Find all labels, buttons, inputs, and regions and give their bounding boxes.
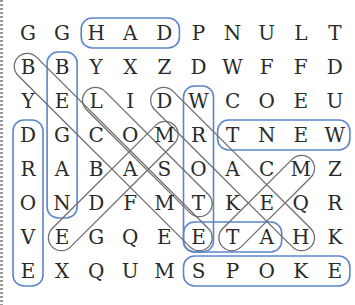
grid-letter[interactable]: A xyxy=(115,154,145,184)
grid-letter[interactable]: I xyxy=(115,86,145,116)
grid-letter[interactable]: T xyxy=(320,18,350,48)
grid-letter[interactable]: Z xyxy=(320,154,350,184)
grid-letter[interactable]: X xyxy=(47,256,77,286)
grid-letter[interactable]: F xyxy=(252,52,282,82)
grid-letter[interactable]: G xyxy=(81,222,111,252)
grid-letter[interactable]: H xyxy=(81,18,111,48)
grid-letter[interactable]: O xyxy=(252,86,282,116)
grid-letter[interactable]: B xyxy=(81,154,111,184)
grid-letter[interactable]: G xyxy=(47,120,77,150)
grid-letter[interactable]: E xyxy=(47,86,77,116)
grid-letter[interactable]: E xyxy=(320,256,350,286)
grid-letter[interactable]: T xyxy=(218,120,248,150)
grid-letter[interactable]: D xyxy=(149,18,179,48)
grid-letter[interactable]: D xyxy=(149,86,179,116)
word-search-board: GGHADPNULTBBYXZDWFFDYELIDWCOEUDGCOMRTNEW… xyxy=(0,0,355,305)
grid-letter[interactable]: U xyxy=(320,86,350,116)
grid-letter[interactable]: X xyxy=(115,52,145,82)
grid-letter[interactable]: S xyxy=(184,256,214,286)
grid-letter[interactable]: T xyxy=(218,222,248,252)
grid-letter[interactable]: F xyxy=(115,188,145,218)
grid-letter[interactable]: L xyxy=(286,18,316,48)
grid-letter[interactable]: U xyxy=(115,256,145,286)
grid-letter[interactable]: D xyxy=(81,188,111,218)
grid-letter[interactable]: E xyxy=(184,222,214,252)
grid-letter[interactable]: M xyxy=(149,188,179,218)
grid-letter[interactable]: Y xyxy=(81,52,111,82)
grid-letter[interactable]: L xyxy=(81,86,111,116)
page-edge xyxy=(0,0,3,305)
grid-letter[interactable]: W xyxy=(320,120,350,150)
grid-letter[interactable]: B xyxy=(47,52,77,82)
grid-letter[interactable]: H xyxy=(286,222,316,252)
grid-letter[interactable]: T xyxy=(184,188,214,218)
grid-letter[interactable]: E xyxy=(286,120,316,150)
grid-letter[interactable]: K xyxy=(218,188,248,218)
grid-letter[interactable]: D xyxy=(13,120,43,150)
grid-letter[interactable]: E xyxy=(252,188,282,218)
grid-letter[interactable]: P xyxy=(184,18,214,48)
grid-letter[interactable]: W xyxy=(184,86,214,116)
grid-letter[interactable]: A xyxy=(252,222,282,252)
grid-letter[interactable]: G xyxy=(13,18,43,48)
grid-letter[interactable]: V xyxy=(13,222,43,252)
grid-letter[interactable]: A xyxy=(47,154,77,184)
grid-letter[interactable]: N xyxy=(218,18,248,48)
grid-letter[interactable]: M xyxy=(286,154,316,184)
grid-letter[interactable]: M xyxy=(149,256,179,286)
grid-letter[interactable]: Q xyxy=(81,256,111,286)
grid-letter[interactable]: E xyxy=(149,222,179,252)
grid-letter[interactable]: W xyxy=(218,52,248,82)
grid-letter[interactable]: R xyxy=(320,188,350,218)
grid-letter[interactable]: C xyxy=(218,86,248,116)
grid-letter[interactable]: Y xyxy=(13,86,43,116)
grid-letter[interactable]: B xyxy=(13,52,43,82)
grid-letter[interactable]: C xyxy=(252,154,282,184)
grid-letter[interactable]: U xyxy=(252,18,282,48)
grid-letter[interactable]: O xyxy=(115,120,145,150)
grid-letter[interactable]: Q xyxy=(286,188,316,218)
grid-letter[interactable]: R xyxy=(13,154,43,184)
grid-letter[interactable]: G xyxy=(47,18,77,48)
grid-letter[interactable]: D xyxy=(184,52,214,82)
grid-letter[interactable]: E xyxy=(13,256,43,286)
grid-letter[interactable]: S xyxy=(149,154,179,184)
grid-letter[interactable]: K xyxy=(286,256,316,286)
grid-letter[interactable]: P xyxy=(218,256,248,286)
grid-letter[interactable]: E xyxy=(47,222,77,252)
grid-letter[interactable]: A xyxy=(218,154,248,184)
grid-letter[interactable]: N xyxy=(252,120,282,150)
grid-letter[interactable]: R xyxy=(184,120,214,150)
grid-letter[interactable]: Q xyxy=(115,222,145,252)
grid-letter[interactable]: C xyxy=(81,120,111,150)
grid-letter[interactable]: O xyxy=(252,256,282,286)
grid-letter[interactable]: D xyxy=(320,52,350,82)
grid-letter[interactable]: O xyxy=(184,154,214,184)
grid-letter[interactable]: F xyxy=(286,52,316,82)
grid-letter[interactable]: K xyxy=(320,222,350,252)
grid-letter[interactable]: M xyxy=(149,120,179,150)
grid-letter[interactable]: O xyxy=(13,188,43,218)
grid-letter[interactable]: A xyxy=(115,18,145,48)
grid-letter[interactable]: E xyxy=(286,86,316,116)
grid-letter[interactable]: N xyxy=(47,188,77,218)
grid-letter[interactable]: Z xyxy=(149,52,179,82)
